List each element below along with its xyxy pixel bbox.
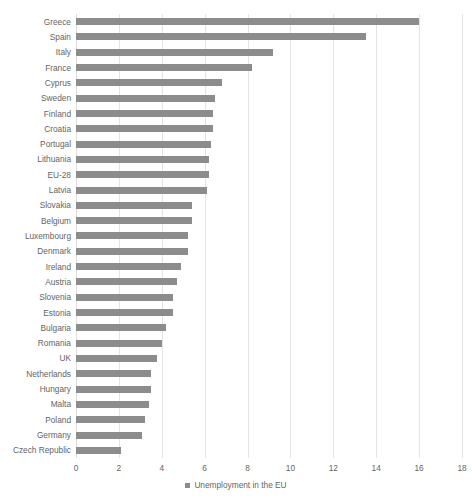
x-tick-label: 4: [159, 462, 164, 474]
category-label: Romania: [0, 338, 71, 348]
category-label: Czech Republic: [0, 445, 71, 455]
x-tick-label: 6: [202, 462, 207, 474]
category-label: France: [0, 63, 71, 73]
bar[interactable]: [76, 324, 166, 331]
bar[interactable]: [76, 278, 177, 285]
bar[interactable]: [76, 79, 222, 86]
bar[interactable]: [76, 49, 273, 56]
bars-container: [76, 14, 462, 458]
bar-row[interactable]: [76, 198, 462, 213]
category-label: Denmark: [0, 246, 71, 256]
category-label: Lithuania: [0, 154, 71, 164]
bar-row[interactable]: [76, 320, 462, 335]
bar-row[interactable]: [76, 106, 462, 121]
bar-row[interactable]: [76, 75, 462, 90]
category-label: EU-28: [0, 170, 71, 180]
bar-row[interactable]: [76, 167, 462, 182]
bar-row[interactable]: [76, 228, 462, 243]
bar[interactable]: [76, 432, 142, 439]
bar-row[interactable]: [76, 182, 462, 197]
category-label: Malta: [0, 399, 71, 409]
gridline-18: [462, 14, 463, 458]
category-label: Portugal: [0, 139, 71, 149]
category-label: Bulgaria: [0, 323, 71, 333]
bar-row[interactable]: [76, 366, 462, 381]
bar[interactable]: [76, 355, 157, 362]
category-label: Estonia: [0, 308, 71, 318]
bar-row[interactable]: [76, 336, 462, 351]
bar-row[interactable]: [76, 290, 462, 305]
category-label: Greece: [0, 17, 71, 27]
bar-row[interactable]: [76, 213, 462, 228]
bar[interactable]: [76, 232, 188, 239]
x-tick-label: 14: [372, 462, 381, 474]
bar-row[interactable]: [76, 60, 462, 75]
bar-row[interactable]: [76, 45, 462, 60]
bar[interactable]: [76, 95, 215, 102]
bar[interactable]: [76, 156, 209, 163]
category-label: Slovenia: [0, 292, 71, 302]
category-label: Cyprus: [0, 78, 71, 88]
category-label: Finland: [0, 109, 71, 119]
bar[interactable]: [76, 416, 145, 423]
bar-row[interactable]: [76, 121, 462, 136]
bar[interactable]: [76, 294, 173, 301]
bar[interactable]: [76, 217, 192, 224]
bar-row[interactable]: [76, 14, 462, 29]
bar-row[interactable]: [76, 443, 462, 458]
bar[interactable]: [76, 141, 211, 148]
category-label: Croatia: [0, 124, 71, 134]
category-axis-labels: GreeceSpainItalyFranceCyprusSwedenFinlan…: [0, 14, 71, 458]
bar-row[interactable]: [76, 427, 462, 442]
bar-row[interactable]: [76, 412, 462, 427]
bar-row[interactable]: [76, 244, 462, 259]
bar[interactable]: [76, 309, 173, 316]
category-label: Germany: [0, 430, 71, 440]
bar[interactable]: [76, 187, 207, 194]
x-tick-label: 10: [286, 462, 295, 474]
bar-row[interactable]: [76, 152, 462, 167]
x-tick-label: 8: [245, 462, 250, 474]
category-label: Sweden: [0, 93, 71, 103]
category-label: Austria: [0, 277, 71, 287]
bar[interactable]: [76, 110, 213, 117]
bar-row[interactable]: [76, 274, 462, 289]
bar[interactable]: [76, 340, 162, 347]
legend-swatch-icon: [185, 483, 190, 488]
bar[interactable]: [76, 386, 151, 393]
legend-label: Unemployment in the EU: [194, 480, 286, 490]
category-label: Ireland: [0, 262, 71, 272]
bar-row[interactable]: [76, 259, 462, 274]
bar[interactable]: [76, 18, 419, 25]
bar-chart: GreeceSpainItalyFranceCyprusSwedenFinlan…: [0, 0, 472, 504]
bar[interactable]: [76, 171, 209, 178]
bar[interactable]: [76, 33, 366, 40]
category-label: Slovakia: [0, 200, 71, 210]
category-label: Luxembourg: [0, 231, 71, 241]
bar[interactable]: [76, 447, 121, 454]
bar-row[interactable]: [76, 381, 462, 396]
bar[interactable]: [76, 125, 213, 132]
bar-row[interactable]: [76, 305, 462, 320]
category-label: Hungary: [0, 384, 71, 394]
bar[interactable]: [76, 401, 149, 408]
bar[interactable]: [76, 64, 252, 71]
category-label: Poland: [0, 415, 71, 425]
bar-row[interactable]: [76, 29, 462, 44]
value-axis-labels: 024681012141618: [76, 462, 462, 476]
bar[interactable]: [76, 248, 188, 255]
bar[interactable]: [76, 202, 192, 209]
category-label: Italy: [0, 47, 71, 57]
bar-row[interactable]: [76, 351, 462, 366]
chart-legend: Unemployment in the EU: [0, 480, 472, 490]
bar-row[interactable]: [76, 91, 462, 106]
bar[interactable]: [76, 263, 181, 270]
x-tick-label: 2: [117, 462, 122, 474]
category-label: Belgium: [0, 216, 71, 226]
x-tick-label: 12: [329, 462, 338, 474]
bar[interactable]: [76, 370, 151, 377]
category-label: UK: [0, 353, 71, 363]
bar-row[interactable]: [76, 397, 462, 412]
x-tick-label: 16: [414, 462, 423, 474]
bar-row[interactable]: [76, 136, 462, 151]
